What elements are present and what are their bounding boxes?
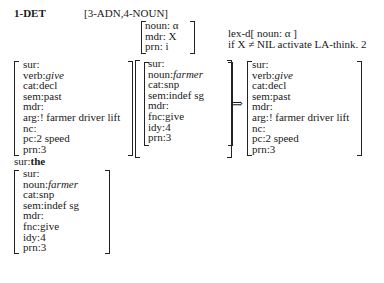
avm-value: 3: [166, 131, 172, 143]
avm-value: indef sg: [169, 89, 204, 101]
output-noun-avm: sur:noun:farmercat:snpsem:indef sgmdr:fn…: [23, 168, 79, 253]
surface-label: sur:the: [14, 155, 45, 167]
input-verb-avm: sur:verb:givecat:declsem:pastmdr:arg:! f…: [23, 59, 120, 154]
avm-attribute: prn:: [252, 143, 270, 155]
avm-value: ! farmer driver lift: [269, 111, 349, 123]
output-verb-avm: sur:verb:givecat:declsem:pastmdr:arg:! f…: [252, 59, 349, 154]
rule-pattern-avm: noun: α mdr: X prn: i: [145, 20, 179, 52]
avm-attribute: prn:: [23, 241, 41, 253]
avm-line: arg:! farmer driver lift: [252, 112, 349, 123]
avm-value: 3: [41, 241, 47, 253]
pattern-line: prn: i: [145, 41, 179, 52]
avm-line: prn:3: [148, 132, 204, 143]
avm-line: prn:3: [23, 144, 120, 155]
transition-arrow-icon: ⇒: [232, 96, 243, 112]
avm-attribute: prn:: [23, 143, 41, 155]
avm-value: past: [44, 90, 62, 102]
avm-value: past: [273, 90, 291, 102]
rule-label: 1-DET: [14, 7, 46, 19]
avm-line: arg:! farmer driver lift: [23, 112, 120, 123]
avm-value: 3: [41, 143, 47, 155]
avm-value: indef sg: [44, 199, 79, 211]
pattern-line: noun: α: [145, 20, 179, 31]
operation-activate: if X ≠ NIL activate LA-think. 2: [228, 38, 367, 50]
avm-line: prn:3: [252, 144, 349, 155]
input-noun-avm: sur:noun:farmercat:snpsem:indef sgmdr:fn…: [148, 58, 204, 143]
rule-package: [3-ADN,4-NOUN]: [84, 7, 168, 19]
avm-value: ! farmer driver lift: [40, 111, 120, 123]
avm-value: 3: [270, 143, 276, 155]
avm-attribute: prn:: [148, 131, 166, 143]
avm-line: prn:3: [23, 242, 79, 253]
